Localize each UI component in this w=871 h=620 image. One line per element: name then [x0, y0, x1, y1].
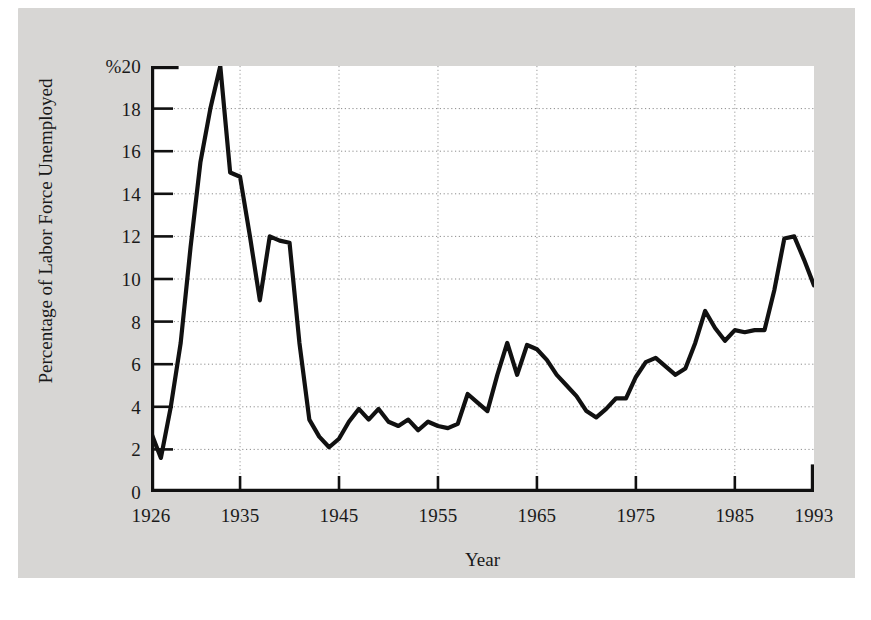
y-tick-label: 0: [47, 483, 141, 502]
chart-svg: [151, 66, 814, 492]
x-tick-label: 1955: [393, 506, 483, 525]
y-tick-label: 2: [47, 440, 141, 459]
x-tick-label: 1975: [591, 506, 681, 525]
x-tick-label: 1965: [492, 506, 582, 525]
x-axis-title: Year: [151, 549, 814, 571]
x-tick-label: 1985: [690, 506, 780, 525]
y-tick-label: 14: [47, 185, 141, 204]
y-tick-label: 10: [47, 270, 141, 289]
x-tick-label: 1993: [769, 506, 859, 525]
y-tick-label: %20: [47, 57, 141, 76]
x-tick-label: 1926: [106, 506, 196, 525]
y-tick-label: 6: [47, 355, 141, 374]
scanned-page-background: Percentage of Labor Force Unemployed Yea…: [18, 8, 855, 578]
y-tick-label: 8: [47, 313, 141, 332]
x-tick-label: 1945: [294, 506, 384, 525]
y-tick-label: 12: [47, 227, 141, 246]
y-tick-label: 16: [47, 142, 141, 161]
x-tick-label: 1935: [195, 506, 285, 525]
y-tick-label: 4: [47, 398, 141, 417]
plot-area: [151, 66, 814, 492]
y-tick-label: 18: [47, 100, 141, 119]
figure-container: Percentage of Labor Force Unemployed Yea…: [0, 0, 871, 620]
unemployment-series-line: [151, 66, 814, 458]
